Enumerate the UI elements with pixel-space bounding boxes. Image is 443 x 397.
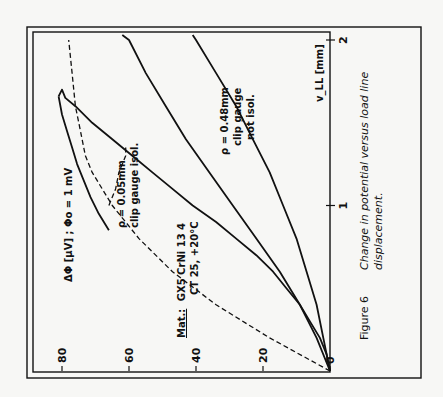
material-grade: GX5 CrNi 13 4 [176,223,187,301]
material-prefix: Mat.: [176,309,187,338]
series-label-isol-line1: ρ = 0.05mm [116,160,127,228]
series-line-4 [69,40,330,371]
figure-label: Figure 6 [358,296,371,340]
figure-caption-line2: displacement. [372,192,385,270]
series-label-notisol-line1: ρ = 0.48mm [219,87,230,155]
series-label-notisol-line2: clip gauge [232,87,243,146]
tick-label: 20 [257,347,270,363]
displacement-axis-title: v_LL [mm] [314,44,326,102]
series-label-isol-line2: clip gauge isol. [129,143,140,228]
potential-axis-title: ΔΦ [µV] ; Φo = 1 mV [63,168,74,282]
tick-label: 40 [190,347,203,363]
tick-label: 60 [123,347,136,363]
potential-axis-ticks: 020406080 [56,347,337,371]
material-note-line2: CT 25, +20°C [189,222,200,295]
data-series [59,35,330,371]
tick-label: 80 [56,347,69,363]
series-label-notisol-line3: not isol. [245,94,256,140]
figure-caption-line1: Change in potential versus load line [358,72,371,270]
tick-label: 2 [337,36,350,44]
tick-label: 1 [337,202,350,210]
material-note-line1: Mat.: GX5 CrNi 13 4 [176,223,187,338]
series-line-3 [122,35,330,371]
figure-6-chart: 020406080 12 ΔΦ [µV] ; Φo = 1 mV v_LL [m… [0,0,443,397]
